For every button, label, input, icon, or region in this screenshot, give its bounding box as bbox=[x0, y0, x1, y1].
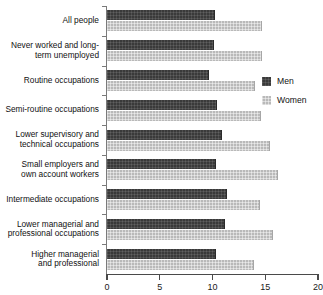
category-label-8: Higher managerial and professional bbox=[0, 250, 99, 269]
x-axis-label-3: 15 bbox=[260, 282, 270, 292]
x-axis-tick-4 bbox=[317, 275, 318, 280]
category-label-6: Intermediate occupations bbox=[0, 195, 99, 205]
bar-women-3 bbox=[107, 111, 261, 121]
bar-women-6 bbox=[107, 200, 260, 210]
bar-women-2 bbox=[107, 81, 255, 91]
bar-women-0 bbox=[107, 21, 262, 31]
legend-item-women: Women bbox=[262, 95, 306, 105]
bar-men-2 bbox=[107, 70, 209, 80]
category-label-1: Never worked and long- term unemployed bbox=[0, 41, 99, 60]
x-axis-label-2: 10 bbox=[207, 282, 217, 292]
bars-layer bbox=[107, 6, 318, 274]
category-label-7: Lower managerial and professional occupa… bbox=[0, 220, 99, 239]
bar-men-7 bbox=[107, 219, 225, 229]
category-label-4: Lower supervisory and technical occupati… bbox=[0, 130, 99, 149]
category-label-2: Routine occupations bbox=[0, 76, 99, 86]
category-label-0: All people bbox=[0, 16, 99, 26]
bar-women-4 bbox=[107, 141, 270, 151]
x-axis-label-4: 20 bbox=[313, 282, 323, 292]
category-label-5: Small employers and own account workers bbox=[0, 160, 99, 179]
bar-men-6 bbox=[107, 189, 227, 199]
legend-swatch-men-icon bbox=[262, 77, 271, 86]
x-axis-tick-0 bbox=[106, 275, 107, 280]
bar-men-5 bbox=[107, 159, 216, 169]
category-label-3: Semi-routine occupations bbox=[0, 105, 99, 115]
x-axis-tick-3 bbox=[265, 275, 266, 280]
legend-swatch-women-icon bbox=[262, 96, 271, 105]
bar-women-7 bbox=[107, 230, 273, 240]
bar-women-1 bbox=[107, 51, 262, 61]
bar-chart: All peopleNever worked and long- term un… bbox=[0, 0, 323, 295]
bar-men-0 bbox=[107, 10, 215, 20]
legend-item-men: Men bbox=[262, 76, 306, 86]
legend-label-men: Men bbox=[277, 76, 294, 86]
x-axis-label-0: 0 bbox=[104, 282, 109, 292]
bar-men-8 bbox=[107, 249, 216, 259]
x-axis-tick-2 bbox=[212, 275, 213, 280]
x-axis-label-1: 5 bbox=[157, 282, 162, 292]
bar-men-4 bbox=[107, 130, 222, 140]
chart-legend: Men Women bbox=[262, 76, 306, 114]
legend-label-women: Women bbox=[277, 95, 306, 105]
x-axis-tick-1 bbox=[159, 275, 160, 280]
bar-men-3 bbox=[107, 100, 217, 110]
bar-women-5 bbox=[107, 170, 278, 180]
bar-men-1 bbox=[107, 40, 214, 50]
bar-women-8 bbox=[107, 260, 254, 270]
